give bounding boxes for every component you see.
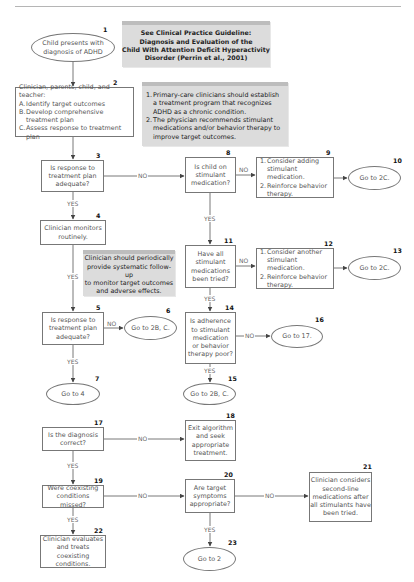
node-text: second-line — [310, 485, 371, 493]
list-text: Identify target outcomes — [26, 100, 130, 108]
node-text: medication — [188, 334, 233, 342]
node-text: Is child on — [191, 163, 230, 171]
edge-label-11-to-12-no: NO — [238, 257, 249, 264]
node-number-15: 15 — [228, 375, 237, 382]
edge-label-19-to-22-yes: YES — [66, 516, 79, 523]
node-number-13: 13 — [393, 247, 402, 254]
list-text: Reinforce behavior therapy. — [267, 273, 330, 290]
edge-label-11-to-14-yes: YES — [203, 295, 216, 302]
node-text: Were coexisting — [43, 484, 103, 492]
node-number-9: 9 — [326, 149, 330, 156]
list-text: Primary-care clinicians should establish… — [153, 91, 284, 116]
node-text: medication? — [191, 179, 230, 187]
list-text: Develop comprehensive treatment plan — [26, 108, 130, 125]
node-text: stimulant — [191, 258, 230, 266]
node-number-7: 7 — [95, 375, 99, 382]
node-number-17: 17 — [94, 419, 103, 426]
edge-label-14-to-16-no: NO — [244, 332, 255, 339]
note-line: Diagnosis and Evaluation of the — [122, 38, 270, 46]
node-number-6: 6 — [166, 307, 170, 314]
node-number-5: 5 — [96, 304, 100, 311]
node-13-go-to-2c[interactable]: Go to 2C. — [348, 256, 401, 280]
list-marker: 1. — [260, 248, 267, 273]
list-marker: 2. — [260, 273, 267, 290]
node-text: Go to 4 — [61, 390, 84, 398]
list-text: The physician recommends stimulant medic… — [153, 116, 284, 141]
node-list-item: 1.Consider adding stimulant medication. — [260, 157, 330, 182]
node-text: Child presents with — [42, 39, 103, 47]
node-19-coexisting-conditions-missed: Were coexistingconditions missed? — [42, 485, 104, 508]
list-marker: A. — [19, 100, 26, 108]
node-text: to stimulant — [188, 326, 233, 334]
node-number-16: 16 — [315, 316, 324, 323]
note-list-item: 2.The physician recommends stimulant med… — [146, 116, 284, 141]
node-number-1: 1 — [103, 26, 107, 33]
edge-label-19-to-20-no: NO — [137, 492, 148, 499]
list-marker: 1. — [260, 157, 267, 182]
node-text: Is adherence — [188, 317, 233, 325]
edge-label-8-to-9-no: NO — [238, 166, 249, 173]
node-8-on-stimulant: Is child onstimulantmedication? — [185, 157, 236, 193]
node-text: Go to 2B, C. — [131, 324, 169, 332]
node-list-item: 1.Consider another stimulant medication. — [260, 248, 330, 273]
node-text: diagnosis of ADHD — [42, 48, 103, 56]
edge-label-3-to-4-yes: YES — [66, 200, 79, 207]
node-list-item: 2.Reinforce behavior therapy. — [260, 273, 330, 290]
node-number-3: 3 — [96, 152, 100, 159]
list-text: Reinforce behavior therapy. — [267, 182, 330, 199]
note-line: and adverse effects. — [83, 287, 175, 295]
node-text: conditions missed? — [43, 492, 103, 509]
note-line: Disorder (Perrin et al., 2001) — [122, 54, 270, 62]
node-number-18: 18 — [226, 412, 235, 419]
node-text: therapy poor? — [188, 350, 233, 358]
list-text: Consider another stimulant medication. — [267, 248, 330, 273]
node-7-go-to-4[interactable]: Go to 4 — [46, 383, 100, 405]
node-3-response-adequate: Is response totreatment planadequate? — [41, 160, 104, 192]
node-21-second-line-medications: Clinician considerssecond-linemedication… — [309, 472, 372, 522]
node-text: adequate? — [49, 180, 97, 188]
edge-label-5-to-6-no: NO — [106, 320, 117, 327]
node-number-8: 8 — [226, 149, 230, 156]
node-23-go-to-2[interactable]: Go to 2 — [183, 547, 236, 571]
list-text: Assess response to treatment plan — [26, 124, 130, 141]
node-text: routinely. — [44, 233, 101, 241]
node-text: treatment plan — [49, 172, 97, 180]
node-text: all stimulants have — [310, 501, 371, 509]
edge-label-8-to-11-yes: YES — [203, 215, 216, 222]
node-text: Go to 2C. — [360, 264, 390, 272]
list-marker: 2. — [146, 116, 153, 141]
node-text: treatment. — [188, 449, 233, 457]
node-15-go-to-2bc[interactable]: Go to 2B, C. — [183, 383, 236, 405]
note-line: to monitor target outcomes — [83, 279, 175, 287]
edge-label-17-to-19-yes: YES — [66, 462, 79, 469]
note-line: Child With Attention Deficit Hyperactivi… — [122, 46, 270, 54]
node-22-evaluate-coexisting-conditions: Clinician evaluatesand treats coexisting… — [40, 535, 106, 568]
guideline-reference-note: See Clinical Practice Guideline: Diagnos… — [122, 21, 270, 67]
node-text: Have all — [191, 250, 230, 258]
node-text: medications after — [310, 493, 371, 501]
note-line: provide systematic follow-up — [83, 263, 175, 280]
node-2-care-team-tasks: Clinician, parents, child, and teacher: … — [15, 87, 134, 137]
node-text: conditions. — [41, 560, 105, 568]
node-number-23: 23 — [228, 539, 237, 546]
node-number-2: 2 — [113, 79, 117, 86]
node-text: correct? — [48, 439, 98, 447]
node-16-go-to-17[interactable]: Go to 17. — [271, 325, 323, 348]
node-text: appropriate — [188, 441, 233, 449]
node-number-14: 14 — [225, 304, 234, 311]
edge-label-3-to-8-no: NO — [137, 172, 148, 179]
edge-label-17-to-18-no: NO — [137, 435, 148, 442]
node-text: Clinician evaluates — [41, 535, 105, 543]
node-6-go-to-2bc[interactable]: Go to 2B, C. — [124, 316, 177, 340]
node-text: medications — [191, 267, 230, 275]
node-number-10: 10 — [393, 157, 402, 164]
edge-label-4-to-5-yes: YES — [66, 273, 79, 280]
node-number-12: 12 — [324, 240, 333, 247]
node-10-go-to-2c[interactable]: Go to 2C. — [348, 166, 401, 190]
node-text: adequate? — [49, 333, 97, 341]
node-list-item: 2.Reinforce behavior therapy. — [260, 182, 330, 199]
node-text: Clinician considers — [310, 476, 371, 484]
note-line: Clinician should periodically — [83, 254, 175, 262]
node-text: Exit algorithm — [188, 424, 233, 432]
node-text: Is response to — [49, 316, 97, 324]
